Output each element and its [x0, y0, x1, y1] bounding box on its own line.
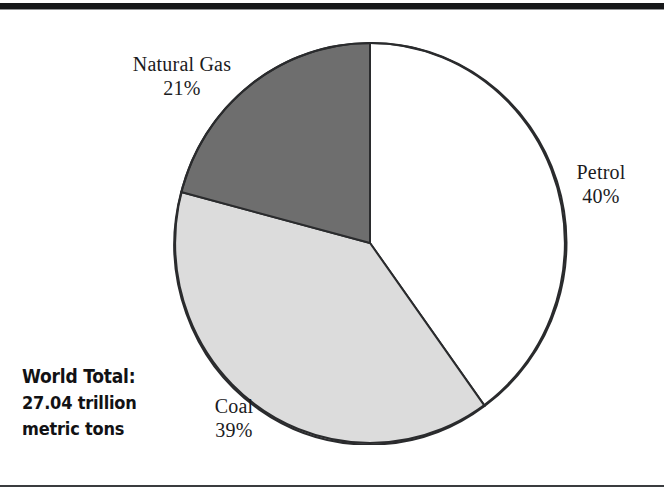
pie-label-coal-name: Coal	[186, 394, 282, 418]
world-total-annotation: World Total: 27.04 trillion metric tons	[22, 363, 190, 441]
world-total-value: 27.04 trillion	[22, 390, 190, 416]
pie-label-petrol-name: Petrol	[552, 160, 650, 184]
page-bottom-rule	[0, 485, 664, 487]
pie-label-natural-gas-name: Natural Gas	[106, 52, 258, 76]
pie-label-coal-percent: 39%	[186, 418, 282, 442]
pie-label-natural-gas-percent: 21%	[106, 76, 258, 100]
world-total-heading: World Total:	[22, 363, 190, 390]
chart-page: Natural Gas 21% Petrol 40% Coal 39% Worl…	[0, 0, 664, 489]
pie-label-coal: Coal 39%	[186, 394, 282, 443]
pie-chart-svg	[172, 41, 568, 445]
pie-label-natural-gas: Natural Gas 21%	[106, 52, 258, 101]
pie-chart	[172, 41, 568, 445]
pie-label-petrol-percent: 40%	[552, 184, 650, 208]
pie-label-petrol: Petrol 40%	[552, 160, 650, 209]
page-top-rule-hairline	[0, 9, 664, 10]
world-total-units: metric tons	[22, 416, 190, 442]
